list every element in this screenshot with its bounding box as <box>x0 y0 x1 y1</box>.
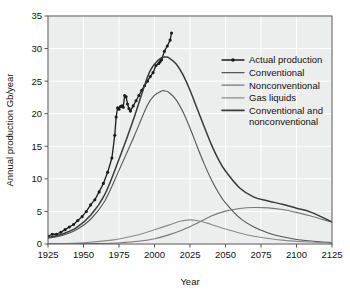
x-tick-label: 1925 <box>37 249 58 260</box>
data-point-marker <box>127 107 130 110</box>
data-point-marker <box>98 190 101 193</box>
data-point-marker <box>113 134 116 137</box>
data-point-marker <box>122 106 125 109</box>
data-point-marker <box>152 71 155 74</box>
data-point-marker <box>125 95 128 98</box>
data-point-marker <box>166 44 169 47</box>
data-point-marker <box>81 215 84 218</box>
legend-label: Conventional and <box>249 105 323 116</box>
legend-label: Nonconventional <box>249 80 320 91</box>
data-point-marker <box>126 102 129 105</box>
data-point-marker <box>106 171 109 174</box>
data-point-marker <box>134 99 137 102</box>
data-point-marker <box>59 231 62 234</box>
data-point-marker <box>149 75 152 78</box>
x-tick-label: 2075 <box>250 249 271 260</box>
x-tick-label: 2000 <box>144 249 165 260</box>
data-point-marker <box>72 223 75 226</box>
data-point-marker <box>51 233 54 236</box>
legend-label: Conventional <box>249 67 304 78</box>
data-point-marker <box>117 108 120 111</box>
data-point-marker <box>63 228 66 231</box>
data-point-marker <box>110 156 113 159</box>
y-tick-label: 35 <box>31 10 42 21</box>
data-point-marker <box>169 39 172 42</box>
x-tick-label: 1950 <box>73 249 94 260</box>
x-tick-label: 2050 <box>215 249 236 260</box>
data-point-marker <box>93 198 96 201</box>
legend-label: Gas liquids <box>249 92 296 103</box>
y-tick-label: 25 <box>31 76 42 87</box>
data-point-marker <box>170 31 173 34</box>
x-tick-label: 2100 <box>286 249 307 260</box>
x-tick-label: 2025 <box>179 249 200 260</box>
legend-label: Actual production <box>249 54 322 65</box>
data-point-marker <box>68 226 71 229</box>
data-point-marker <box>85 210 88 213</box>
legend-label-continued: nonconventional <box>249 116 318 127</box>
y-tick-label: 0 <box>37 238 42 249</box>
y-tick-label: 10 <box>31 173 42 184</box>
data-point-marker <box>89 203 92 206</box>
chart-figure: 192519501975200020252050207521002125 051… <box>0 0 350 292</box>
legend-swatch-marker <box>231 58 235 62</box>
oil-production-chart: 192519501975200020252050207521002125 051… <box>0 0 350 292</box>
data-point-marker <box>129 110 132 113</box>
y-axis-title: Annual production Gb/year <box>4 73 15 186</box>
y-tick-label: 15 <box>31 141 42 152</box>
y-tick-label: 30 <box>31 43 42 54</box>
x-tick-label: 1975 <box>108 249 129 260</box>
x-axis-title: Year <box>180 276 199 287</box>
data-point-marker <box>76 219 79 222</box>
data-point-marker <box>115 115 118 118</box>
x-tick-labels: 192519501975200020252050207521002125 <box>37 249 342 260</box>
y-tick-label: 5 <box>37 206 42 217</box>
x-tick-label: 2125 <box>321 249 342 260</box>
data-point-marker <box>132 104 135 107</box>
data-point-marker <box>137 94 140 97</box>
data-point-marker <box>102 182 105 185</box>
y-tick-label: 20 <box>31 108 42 119</box>
data-point-marker <box>163 50 166 53</box>
